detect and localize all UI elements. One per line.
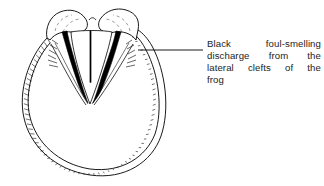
annotation-line-1: Black foul-smelling (207, 38, 321, 50)
annotation-line-3: lateral clefts of the (207, 62, 321, 74)
hoof-thrush-figure: Black foul-smelling discharge from the l… (0, 0, 324, 186)
hoof-diagram-svg (0, 0, 324, 186)
heel-notch (89, 18, 96, 20)
annotation-label: Black foul-smelling discharge from the l… (207, 38, 321, 86)
annotation-line-2: discharge from the (207, 50, 321, 62)
annotation-line-4: frog (207, 74, 321, 86)
